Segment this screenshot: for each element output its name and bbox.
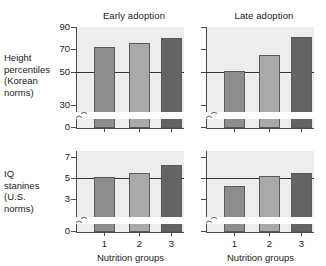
x-axis-label-group-1: 1 <box>224 238 245 249</box>
x-tick-group-2 <box>139 128 140 132</box>
y-tick-3 <box>71 199 76 200</box>
x-tick-group-3 <box>301 128 302 132</box>
y-tick-7 <box>201 157 206 158</box>
y-tick-label-90: 90 <box>59 22 70 32</box>
y-tick-7 <box>71 157 76 158</box>
bar-late-height-group-2 <box>259 55 280 128</box>
row-label-iq-line-4: norms) <box>4 203 39 215</box>
panel-title-early-adoption: Early adoption <box>78 10 190 21</box>
row-label-height-line-3: (Korean <box>4 75 50 87</box>
y-tick-90 <box>201 27 206 28</box>
y-tick-30 <box>71 105 76 106</box>
y-tick-label-0: 0 <box>65 226 70 236</box>
x-tick-group-1 <box>234 128 235 132</box>
y-tick-label-70: 70 <box>59 45 70 55</box>
x-axis-title-late: Nutrition groups <box>207 252 314 263</box>
bar-early-iq-group-2 <box>129 173 150 232</box>
bar-late-iq-group-3 <box>291 173 312 232</box>
row-label-iq-line-3: (U.S. <box>4 191 39 203</box>
figure-chart-adoption-outcomes: Early adoption Late adoption Height perc… <box>0 0 326 266</box>
y-tick-70 <box>71 49 76 50</box>
bar-early-iq-group-1 <box>94 177 115 232</box>
row-label-iq-line-2: stanines <box>4 180 39 192</box>
x-tick-group-2 <box>269 232 270 236</box>
x-axis-baseline <box>206 232 314 233</box>
x-axis-label-group-3: 3 <box>291 238 312 249</box>
bar-late-height-group-1 <box>224 71 245 128</box>
y-tick-label-5: 5 <box>65 174 70 184</box>
row-label-height-line-1: Height <box>4 52 50 64</box>
panel-height-early: 90 70 50 30 0 <box>77 27 184 128</box>
x-tick-group-1 <box>234 232 235 236</box>
y-tick-label-50: 50 <box>59 67 70 77</box>
panel-iq-late: 1 2 3 Nutrition groups <box>207 151 314 232</box>
panel-iq-early: 7 5 3 0 1 2 3 Nutrition groups <box>77 151 184 232</box>
row-label-height-line-2: percentiles <box>4 64 50 76</box>
y-tick-0 <box>201 127 206 128</box>
y-tick-3 <box>201 199 206 200</box>
x-tick-group-2 <box>269 128 270 132</box>
x-axis-label-group-3: 3 <box>161 238 182 249</box>
row-label-height-percentiles: Height percentiles (Korean norms) <box>4 52 50 98</box>
y-tick-0 <box>71 127 76 128</box>
x-axis-baseline <box>76 232 184 233</box>
x-axis-label-group-2: 2 <box>259 238 280 249</box>
y-axis-spine <box>206 27 207 128</box>
row-label-height-line-4: norms) <box>4 87 50 99</box>
y-axis-spine <box>76 27 77 128</box>
bar-early-height-group-1 <box>94 47 115 128</box>
x-axis-title-early: Nutrition groups <box>77 252 184 263</box>
bar-late-iq-group-2 <box>259 176 280 232</box>
bar-early-iq-group-3 <box>161 165 182 232</box>
y-tick-0 <box>71 231 76 232</box>
panel-height-late <box>207 27 314 128</box>
row-label-iq-line-1: IQ <box>4 168 39 180</box>
panel-title-late-adoption: Late adoption <box>208 10 320 21</box>
x-axis-label-group-1: 1 <box>94 238 115 249</box>
y-tick-label-7: 7 <box>65 153 70 163</box>
x-tick-group-3 <box>301 232 302 236</box>
y-axis-spine <box>206 151 207 232</box>
x-tick-group-1 <box>104 128 105 132</box>
y-tick-30 <box>201 105 206 106</box>
y-axis-spine <box>76 151 77 232</box>
bar-late-height-group-3 <box>291 37 312 128</box>
bar-early-height-group-2 <box>129 43 150 128</box>
x-axis-label-group-2: 2 <box>129 238 150 249</box>
y-tick-label-3: 3 <box>65 195 70 205</box>
x-tick-group-3 <box>171 232 172 236</box>
x-tick-group-3 <box>171 128 172 132</box>
x-tick-group-1 <box>104 232 105 236</box>
x-tick-group-2 <box>139 232 140 236</box>
y-tick-label-0: 0 <box>65 122 70 132</box>
row-label-iq-stanines: IQ stanines (U.S. norms) <box>4 168 39 214</box>
x-axis-baseline <box>76 128 184 129</box>
x-axis-baseline <box>206 128 314 129</box>
y-tick-label-30: 30 <box>59 101 70 111</box>
y-tick-70 <box>201 49 206 50</box>
bar-early-height-group-3 <box>161 38 182 128</box>
y-tick-0 <box>201 231 206 232</box>
bar-late-iq-group-1 <box>224 186 245 232</box>
y-tick-90 <box>71 27 76 28</box>
